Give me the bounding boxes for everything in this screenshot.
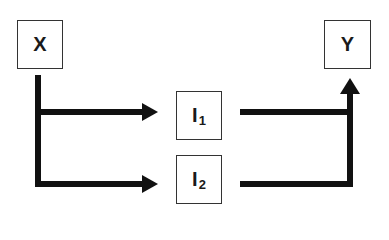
node-i2: I2 — [176, 155, 222, 204]
node-x-label: X — [33, 33, 46, 56]
node-i1-label: I — [192, 104, 198, 127]
arrowhead-icon — [142, 103, 158, 121]
node-i2-label: I — [192, 168, 198, 191]
edge-x-to-i2 — [38, 110, 158, 193]
node-i1-subscript: 1 — [199, 113, 206, 128]
node-i1: I1 — [176, 91, 222, 140]
edge-x-to-i1 — [38, 75, 158, 121]
arrowhead-icon — [142, 175, 158, 193]
edge-i2-to-y — [240, 78, 360, 184]
node-y-label: Y — [341, 33, 354, 56]
arrowhead-icon — [340, 78, 360, 94]
node-x: X — [17, 20, 63, 69]
node-y: Y — [324, 20, 371, 69]
node-i2-subscript: 2 — [199, 177, 206, 192]
